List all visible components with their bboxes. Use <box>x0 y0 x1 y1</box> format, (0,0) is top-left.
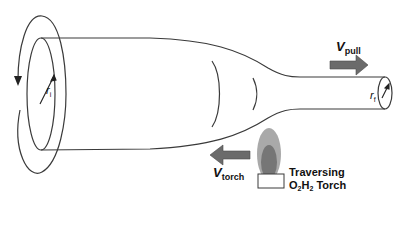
oxygen-subscript: 2 <box>298 185 302 192</box>
v-pull-label: Vpull <box>336 40 361 53</box>
tube-outline <box>27 38 392 150</box>
v-torch-symbol: V <box>213 165 222 180</box>
torch-flame <box>257 128 281 180</box>
r-initial-label: ri <box>46 85 51 96</box>
v-torch-label: Vtorch <box>213 166 244 179</box>
torch-word: Torch <box>313 179 346 191</box>
v-torch-subscript: torch <box>222 172 245 182</box>
taper-section-arc-2 <box>253 78 257 110</box>
r-final-subscript: f <box>374 96 376 103</box>
torch-label-line1: Traversing <box>289 166 346 179</box>
v-pull-symbol: V <box>336 39 345 54</box>
torch-label: Traversing O2H2 Torch <box>289 166 346 193</box>
oxygen-symbol: O <box>289 179 298 191</box>
torch-direction-arrow <box>210 145 250 165</box>
pull-direction-arrow <box>330 55 368 75</box>
r-final-label: rf <box>370 90 376 101</box>
torch-label-line2: O2H2 Torch <box>289 179 346 193</box>
torch-base <box>258 174 284 188</box>
radius-marker-final <box>382 84 389 98</box>
hydrogen-subscript: 2 <box>309 185 313 192</box>
taper-section-arc-1 <box>212 61 220 127</box>
v-pull-subscript: pull <box>345 46 361 56</box>
